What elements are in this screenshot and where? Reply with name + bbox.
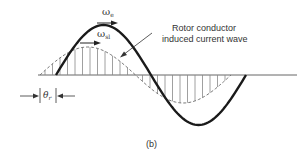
omega-sl-label: ωsl [97, 29, 110, 42]
rotor-label-line2: induced current wave [162, 34, 248, 44]
waveform-diagram [0, 0, 308, 158]
theta-r-label: θr [43, 90, 51, 103]
omega-e-label: ωe [102, 7, 114, 20]
rotor-label-line1: Rotor conductor [172, 23, 236, 33]
figure-caption: (b) [146, 139, 157, 149]
